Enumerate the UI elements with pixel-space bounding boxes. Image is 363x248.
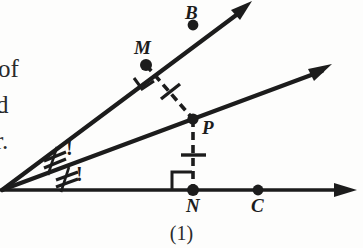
dot-P [187, 113, 198, 124]
margin-text-fragment: r. [0, 128, 8, 153]
point-label-c: C [251, 196, 264, 215]
geometry-figure: of d r. B M P N C ! ! (1) [0, 0, 363, 248]
middle-ray [2, 64, 332, 190]
angle-annotation-lower: ! [76, 164, 83, 184]
angle-annotation-upper: ! [66, 138, 73, 158]
figure-drawing-canvas [0, 0, 363, 248]
dot-M [140, 59, 152, 71]
margin-text-fragment: of [0, 56, 19, 81]
point-label-p: P [202, 118, 214, 137]
point-label-b: B [185, 3, 198, 22]
middle-ray-arrowhead [308, 64, 332, 81]
margin-text-fragment: d [0, 92, 9, 117]
dot-C [253, 185, 264, 196]
point-label-n: N [186, 196, 200, 215]
point-label-m: M [134, 38, 151, 57]
horizontal-ray [2, 183, 357, 197]
point-dots [140, 20, 263, 196]
segment-MP [146, 65, 193, 119]
horizontal-ray-arrowhead [334, 183, 357, 197]
figure-caption: (1) [0, 222, 363, 245]
upper-ray [2, 1, 252, 190]
